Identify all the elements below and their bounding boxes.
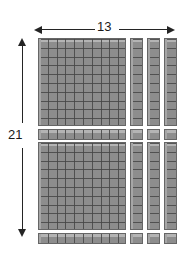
unit-face (165, 130, 176, 139)
flat-grid-top (39, 39, 125, 125)
ten-rod-vertical-top-2 (147, 38, 160, 126)
arrow-head-left-icon (34, 26, 42, 34)
arrow-head-right-icon (167, 26, 175, 34)
rod-grid (165, 143, 176, 229)
ten-rod-vertical-bottom-3 (164, 142, 177, 230)
ten-rod-vertical-bottom-2 (147, 142, 160, 230)
arrow-shaft-right (119, 29, 168, 30)
rod-grid (39, 234, 125, 243)
hundreds-flat-top (38, 38, 126, 126)
rod-grid (165, 39, 176, 125)
height-label: 21 (8, 128, 22, 141)
rod-grid (131, 39, 142, 125)
unit-cube-r2-c3 (164, 233, 177, 244)
arrow-shaft-top (22, 45, 23, 123)
rod-grid (39, 130, 125, 139)
unit-cube-r1-c3 (164, 129, 177, 140)
unit-face (131, 234, 142, 243)
unit-face (165, 234, 176, 243)
hundreds-flat-bottom (38, 142, 126, 230)
ten-rod-vertical-top-3 (164, 38, 177, 126)
unit-cube-r1-c2 (147, 129, 160, 140)
ten-rod-vertical-top-1 (130, 38, 143, 126)
ten-rod-horizontal-1 (38, 129, 126, 140)
rod-grid (148, 39, 159, 125)
arrow-head-down-icon (18, 229, 26, 237)
unit-cube-r2-c1 (130, 233, 143, 244)
arrow-shaft-left (41, 29, 95, 30)
unit-face (131, 130, 142, 139)
diagram-canvas: 13 21 (0, 0, 186, 258)
flat-grid-bottom (39, 143, 125, 229)
rod-grid (131, 143, 142, 229)
unit-face (148, 130, 159, 139)
unit-cube-r2-c2 (147, 233, 160, 244)
ten-rod-vertical-bottom-1 (130, 142, 143, 230)
arrow-shaft-bottom (22, 148, 23, 230)
unit-cube-r1-c1 (130, 129, 143, 140)
ten-rod-horizontal-2 (38, 233, 126, 244)
width-label: 13 (97, 20, 111, 33)
unit-face (148, 234, 159, 243)
rod-grid (148, 143, 159, 229)
